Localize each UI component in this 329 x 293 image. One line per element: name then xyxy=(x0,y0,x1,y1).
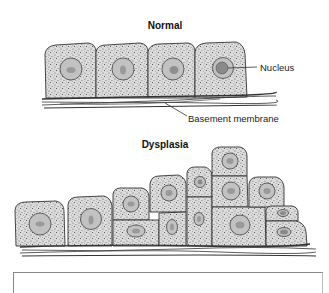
normal-cell xyxy=(96,43,148,98)
nucleus-label: Nucleus xyxy=(260,62,294,73)
basement-membrane-leader-line xyxy=(165,103,187,116)
dysplastic-cell xyxy=(113,220,159,246)
dysplastic-cell xyxy=(187,167,212,197)
dysplasia-epithelium xyxy=(15,147,316,256)
dysplastic-cell xyxy=(266,221,307,246)
dysplastic-cell xyxy=(187,197,212,246)
dysplastic-cell xyxy=(15,201,65,246)
dysplastic-cell xyxy=(159,212,186,246)
normal-title: Normal xyxy=(148,20,182,31)
normal-cell xyxy=(148,43,195,98)
dysplastic-cell xyxy=(68,196,112,246)
dysplastic-cell xyxy=(150,175,186,212)
caption-box xyxy=(13,272,323,293)
basement-membrane-dysplasia xyxy=(20,244,316,256)
normal-cell xyxy=(45,43,96,98)
dysplastic-cell xyxy=(212,207,266,246)
basement-membrane-label: Basement membrane xyxy=(188,113,279,124)
dysplastic-cell xyxy=(212,147,247,176)
dysplastic-cell xyxy=(266,206,298,221)
normal-cell xyxy=(195,42,257,98)
dysplastic-cell xyxy=(212,176,248,207)
normal-epithelium xyxy=(42,42,278,116)
dysplastic-cell xyxy=(249,177,284,207)
dysplastic-cell xyxy=(113,188,149,220)
dysplasia-title: Dysplasia xyxy=(142,139,189,150)
